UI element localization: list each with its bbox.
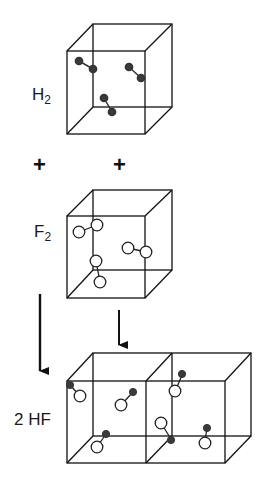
plus-sign-left: + [33, 154, 46, 176]
h2-label: H2 [32, 85, 51, 107]
hf-product-label: 2 HF [14, 410, 51, 430]
h2-container-cube [67, 24, 172, 134]
f2-label: F2 [34, 222, 51, 244]
f2-molecules [73, 219, 152, 288]
f2-container-cube [67, 190, 172, 298]
plus-sign-right: + [113, 154, 126, 176]
